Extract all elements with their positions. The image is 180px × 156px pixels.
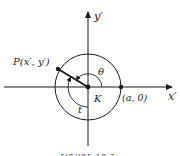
- center-k-dot: [86, 85, 91, 90]
- y-axis-label: y′: [93, 10, 103, 23]
- point-p-label: P(x′, y′): [12, 56, 50, 67]
- radius-kp: [58, 69, 88, 87]
- point-a-label: (a, 0): [122, 92, 147, 103]
- point-p-dot: [56, 67, 60, 71]
- x-axis-label: x′: [168, 90, 177, 103]
- figure-caption: FIGURE 10.2: [61, 153, 116, 156]
- rotation-diagram: y′ x′ P(x′, y′) (a, 0) K θ t FIGURE 10.2: [0, 0, 180, 156]
- point-a-dot: [119, 85, 123, 89]
- theta-label: θ: [98, 66, 104, 77]
- t-label: t: [78, 104, 83, 115]
- center-k-label: K: [93, 93, 102, 104]
